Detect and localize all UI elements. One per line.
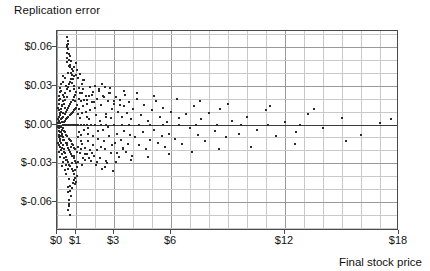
y-tick-mark — [52, 201, 56, 202]
x-axis-title: Final stock price — [339, 256, 422, 268]
x-tick-label: $0 — [50, 234, 62, 246]
x-tick-label: $12 — [275, 234, 293, 246]
y-tick-mark — [52, 162, 56, 163]
x-tick-label: $1 — [69, 234, 81, 246]
x-tick-label: $18 — [389, 234, 407, 246]
x-tick-mark — [113, 230, 114, 234]
y-tick-label: $-0.06 — [0, 195, 52, 207]
y-axis-labels: $0.06$0.03$0.00$-0.03$-0.06 — [0, 0, 430, 271]
y-tick-label: $0.03 — [0, 79, 52, 91]
x-tick-mark — [170, 230, 171, 234]
x-tick-mark — [75, 230, 76, 234]
x-tick-label: $6 — [164, 234, 176, 246]
x-tick-mark — [284, 230, 285, 234]
scatter-plot-figure: Replication error $0.06$0.03$0.00$-0.03$… — [0, 0, 430, 271]
y-tick-mark — [52, 85, 56, 86]
y-tick-label: $-0.03 — [0, 156, 52, 168]
y-tick-label: $0.06 — [0, 40, 52, 52]
y-tick-mark — [52, 46, 56, 47]
x-tick-mark — [398, 230, 399, 234]
y-tick-label: $0.00 — [0, 118, 52, 130]
x-tick-label: $3 — [107, 234, 119, 246]
y-tick-mark — [52, 124, 56, 125]
x-tick-mark — [56, 230, 57, 234]
